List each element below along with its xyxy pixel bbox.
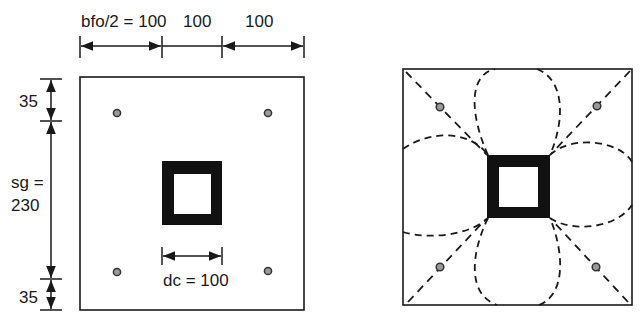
bolt [264, 109, 271, 116]
dim-middle-label: 100 [183, 12, 211, 31]
yield-arc-top [475, 69, 560, 155]
dim-dc-label: dc = 100 [163, 271, 229, 290]
bolt [264, 267, 271, 274]
yield-arc-bottom [475, 218, 560, 305]
dim-edge-top-label: 35 [19, 92, 38, 111]
column-hollow-yield [499, 167, 538, 207]
top-dimension-chain [80, 36, 304, 58]
dc-dimension [162, 247, 222, 265]
bolt [436, 263, 444, 271]
dim-bfo-half-label: bfo/2 = 100 [81, 12, 167, 31]
left-dimension-chain [40, 79, 62, 310]
column-hollow [174, 174, 211, 214]
diagram-canvas: bfo/2 = 100 100 100 35 sg = 230 35 [0, 0, 643, 320]
dim-sg-label-line2: 230 [11, 196, 39, 215]
bolt [113, 109, 120, 116]
left-figure: bfo/2 = 100 100 100 35 sg = 230 35 [11, 12, 304, 310]
yield-arc-right [550, 142, 632, 226]
right-figure [403, 69, 632, 305]
dim-right-label: 100 [245, 12, 273, 31]
bolt [436, 103, 444, 111]
bolt [593, 102, 601, 110]
bolt [113, 268, 120, 275]
bolt [592, 263, 600, 271]
dim-sg-label-line1: sg = [11, 173, 44, 192]
dim-edge-bottom-label: 35 [19, 288, 38, 307]
yield-arc-left [403, 135, 488, 235]
